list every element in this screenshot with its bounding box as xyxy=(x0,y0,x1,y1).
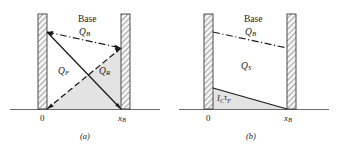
wall-right-a xyxy=(121,14,130,109)
wall-left-b xyxy=(204,14,213,109)
xb-subscript-b: B xyxy=(288,116,292,123)
panel-b-qb-label: QB xyxy=(245,28,256,38)
panel-b-caption: (b) xyxy=(246,132,256,141)
qs-subscript-b: S xyxy=(248,64,251,71)
qr-symbol-a: Q xyxy=(99,66,106,76)
panel-a-qb-label: QB xyxy=(79,28,90,38)
panel-a-axis-xb: xB xyxy=(118,114,126,124)
panel-b-ictauf-label: ICτF xyxy=(217,94,231,104)
qb-symbol-a: Q xyxy=(79,27,86,37)
panel-a-base-label: Base xyxy=(78,15,96,25)
panel-a-qf-label: QF xyxy=(58,67,69,77)
panel-a: Base QB QF QR 0 xB (a) xyxy=(0,0,170,147)
qs-symbol-b: Q xyxy=(241,61,248,71)
panel-b: Base QB QS ICτF 0 xB (b) xyxy=(169,0,339,147)
qf-symbol-a: Q xyxy=(58,66,65,76)
xb-subscript-a: B xyxy=(122,116,126,123)
wall-left-a xyxy=(38,14,47,109)
figure-container: Base QB QF QR 0 xB (a) xyxy=(0,0,339,147)
qb-subscript-a: B xyxy=(86,30,90,37)
panel-a-qr-label: QR xyxy=(99,67,110,77)
tau-subscript-b: F xyxy=(227,97,231,104)
wall-right-b xyxy=(287,14,296,109)
panel-a-axis-origin: 0 xyxy=(40,114,45,123)
panel-a-caption: (a) xyxy=(80,132,90,141)
qr-subscript-a: R xyxy=(106,69,110,76)
panel-b-axis-xb: xB xyxy=(284,114,292,124)
qb-symbol-b: Q xyxy=(245,27,252,37)
qb-subscript-b: B xyxy=(252,30,256,37)
panel-b-axis-origin: 0 xyxy=(206,114,211,123)
qf-subscript-a: F xyxy=(65,69,69,76)
panel-b-base-label: Base xyxy=(244,15,262,25)
panel-b-qs-label: QS xyxy=(241,62,251,72)
